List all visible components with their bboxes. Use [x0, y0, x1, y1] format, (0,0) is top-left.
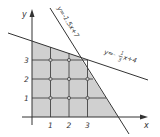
y-tick-3: 3 [24, 56, 29, 65]
y-tick-2: 2 [24, 75, 29, 84]
line-1-label: y=- 1 3 x+4 [102, 45, 139, 67]
x-tick-2: 2 [67, 121, 72, 130]
x-tick-3: 3 [85, 121, 90, 130]
y-axis-arrow-icon [30, 9, 35, 17]
y-axis-label: y [21, 10, 27, 19]
linear-programming-diagram: y x 1 2 3 1 2 3 y=-1.5x+7 y=- 1 3 x+4 [0, 0, 160, 137]
x-axis-arrow-icon [140, 115, 148, 120]
x-axis-label: x [143, 121, 149, 130]
svg-text:y=-: y=- [102, 48, 117, 59]
svg-text:x+4: x+4 [121, 53, 137, 65]
svg-text:3: 3 [118, 56, 123, 63]
x-tick-1: 1 [48, 121, 53, 130]
y-tick-1: 1 [24, 94, 29, 103]
